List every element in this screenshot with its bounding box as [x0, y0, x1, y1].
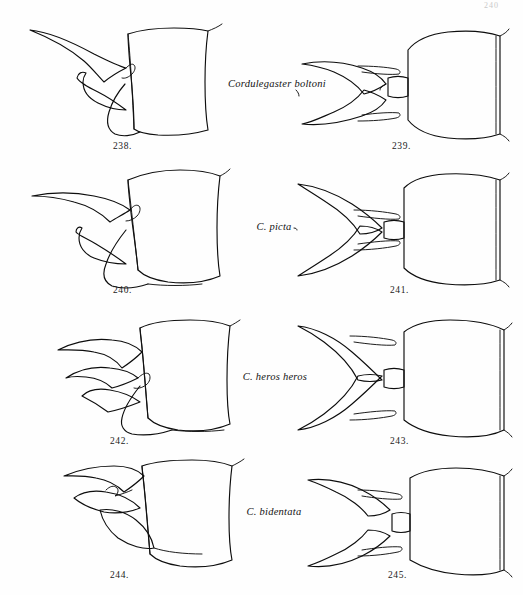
figure-244-number: 244.	[110, 570, 129, 580]
species-label-4: C. bidentata	[232, 506, 316, 517]
figure-241-drawing	[294, 170, 512, 290]
figure-239-number: 239.	[392, 141, 411, 151]
illustration-plate: 240 238.	[0, 0, 523, 595]
figure-238-number: 238.	[113, 141, 132, 151]
figure-241-number: 241.	[390, 285, 409, 295]
species-label-1: Cordulegaster boltoni	[228, 78, 324, 89]
figure-242-drawing	[52, 320, 242, 438]
figure-243-number: 243.	[390, 436, 409, 446]
figure-239-drawing	[296, 22, 511, 144]
figure-238-drawing	[22, 24, 222, 144]
figure-240-number: 240.	[113, 285, 132, 295]
species-label-2: C. picta	[234, 221, 314, 232]
figure-245-number: 245.	[388, 570, 407, 580]
figure-244-drawing	[60, 462, 250, 574]
page-number: 240	[484, 1, 499, 10]
species-label-3: C. heros heros	[228, 371, 322, 382]
figure-243-drawing	[296, 316, 512, 440]
figure-240-drawing	[30, 168, 230, 290]
figure-245-drawing	[300, 466, 512, 578]
figure-242-number: 242.	[110, 436, 129, 446]
